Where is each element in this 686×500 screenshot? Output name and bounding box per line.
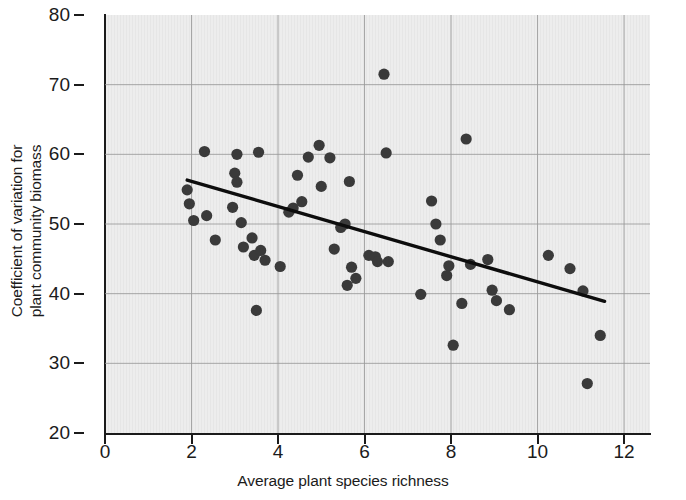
data-point xyxy=(582,378,593,389)
data-point xyxy=(564,263,575,274)
data-point xyxy=(324,152,335,163)
data-point xyxy=(346,262,357,273)
data-point xyxy=(182,184,193,195)
data-point xyxy=(184,198,195,209)
x-axis-label: Average plant species richness xyxy=(0,472,686,490)
data-point xyxy=(378,69,389,80)
data-point xyxy=(231,149,242,160)
data-point xyxy=(231,177,242,188)
data-point xyxy=(199,146,210,157)
data-point xyxy=(443,260,454,271)
data-point xyxy=(292,170,303,181)
data-point xyxy=(448,340,459,351)
data-point xyxy=(435,234,446,245)
data-point xyxy=(350,273,361,284)
data-point xyxy=(487,285,498,296)
data-point xyxy=(296,196,307,207)
data-point xyxy=(210,234,221,245)
data-point xyxy=(430,218,441,229)
data-point xyxy=(255,245,266,256)
data-point xyxy=(259,255,270,266)
scatter-plot-figure: Coefficient of variation for plant commu… xyxy=(0,0,686,500)
data-point xyxy=(253,147,264,158)
data-point xyxy=(238,241,249,252)
data-point xyxy=(482,254,493,265)
data-point xyxy=(303,152,314,163)
data-point xyxy=(316,181,327,192)
data-point xyxy=(227,202,238,213)
data-point xyxy=(456,298,467,309)
data-point xyxy=(415,289,426,300)
data-points xyxy=(182,69,606,390)
data-point xyxy=(329,243,340,254)
data-point xyxy=(426,195,437,206)
data-point xyxy=(383,256,394,267)
data-point xyxy=(275,261,286,272)
data-point xyxy=(314,140,325,151)
data-point xyxy=(236,217,247,228)
data-point xyxy=(491,295,502,306)
data-point xyxy=(188,215,199,226)
data-point xyxy=(543,250,554,261)
data-point xyxy=(595,330,606,341)
data-point xyxy=(461,133,472,144)
data-point xyxy=(201,210,212,221)
data-point xyxy=(251,305,262,316)
data-point xyxy=(246,232,257,243)
data-point xyxy=(441,270,452,281)
plot-canvas xyxy=(0,0,686,500)
data-point xyxy=(504,304,515,315)
data-point xyxy=(342,280,353,291)
data-point xyxy=(344,176,355,187)
data-point xyxy=(381,147,392,158)
data-point xyxy=(372,256,383,267)
gridlines xyxy=(105,15,650,433)
